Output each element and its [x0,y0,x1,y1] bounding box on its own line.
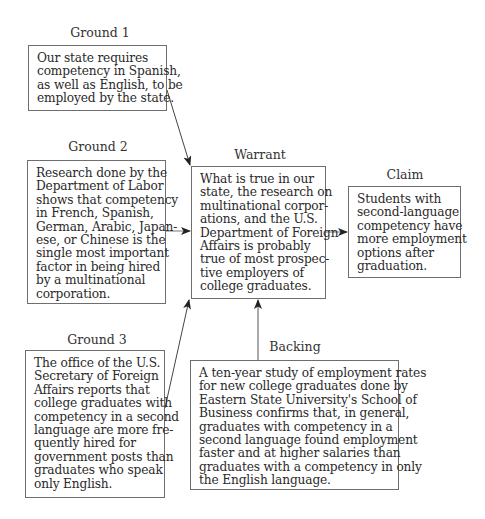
ground2-text-line: by a multinational [36,274,158,287]
ground3-text-line: language are more fre- [34,424,157,437]
ground1-label: Ground 1 [70,25,130,40]
warrant-text-line: true of most prospec- [200,253,318,266]
backing-text-line: Business confirms that, in general, [199,407,391,420]
warrant-text-line: Affairs is probably [200,240,318,253]
ground2-label: Ground 2 [68,139,128,154]
warrant-text-line: college graduates. [200,280,318,293]
ground3-text-line: quently hired for [34,437,157,450]
backing-text-line: graduates with competency in a [199,421,391,434]
ground2-text-line: single most important [36,247,158,260]
warrant-text-line: Department of Foreign [200,227,318,240]
ground1-text-line: as well as English, to be [37,79,159,92]
ground2-text-line: factor in being hired [36,261,158,274]
ground2-box: Research done by the Department of Labor… [27,160,166,304]
backing-text-line: the English language. [199,474,391,487]
warrant-label: Warrant [234,147,286,162]
arrow-ground3-to-warrant [165,300,189,408]
ground1-box: Our state requires competency in Spanish… [28,45,167,111]
ground2-text-line: German, Arabic, Japan- [36,221,158,234]
warrant-text-line: ations, and the U.S. [200,213,318,226]
warrant-box: What is true in our state, the research … [191,166,326,299]
claim-label: Claim [387,167,424,182]
ground2-text-line: shows that competency [36,194,158,207]
claim-text-line: Students with [357,193,453,206]
ground3-text-line: graduates who speak [34,464,157,477]
warrant-text-line: state, the research on [200,186,318,199]
ground2-text-line: ese, or Chinese is the [36,234,158,247]
ground2-text-line: in French, Spanish, [36,207,158,220]
ground3-text-line: government posts than [34,451,157,464]
ground2-text-line: Research done by the [36,167,158,180]
ground3-label: Ground 3 [67,332,127,347]
backing-text-line: Eastern State University's School of [199,394,391,407]
backing-text-line: faster and at higher salaries than [199,447,391,460]
backing-text-line: second language found employment [199,434,391,447]
backing-text-line: graduates with a competency in only [199,461,391,474]
claim-text-line: more employment [357,233,453,246]
ground3-text-line: The office of the U.S. [34,357,157,370]
backing-box: A ten-year study of employment rates for… [190,360,399,490]
ground3-text-line: only English. [34,478,157,491]
ground3-box: The office of the U.S. Secretary of Fore… [25,350,165,498]
ground2-text-line: corporation. [36,288,158,301]
warrant-text-line: What is true in our [200,173,318,186]
claim-text-line: competency have [357,220,453,233]
backing-text-line: A ten-year study of employment rates [199,367,391,380]
backing-label: Backing [269,339,320,354]
claim-text-line: options after [357,247,453,260]
claim-text-line: second-language [357,206,453,219]
claim-box: Students with second-language competency… [348,186,461,278]
ground3-text-line: college graduates with [34,397,157,410]
ground3-text-line: competency in a second [34,411,157,424]
claim-text-line: graduation. [357,260,453,273]
ground3-text-line: Affairs reports that [34,384,157,397]
warrant-text-line: tive employers of [200,267,318,280]
backing-text-line: for new college graduates done by [199,380,391,393]
warrant-text-line: multinational corpor- [200,200,318,213]
ground1-text-line: employed by the state. [37,92,159,105]
ground2-text-line: Department of Labor [36,180,158,193]
ground1-text-line: competency in Spanish, [37,65,159,78]
ground3-text-line: Secretary of Foreign [34,370,157,383]
ground1-text-line: Our state requires [37,52,159,65]
